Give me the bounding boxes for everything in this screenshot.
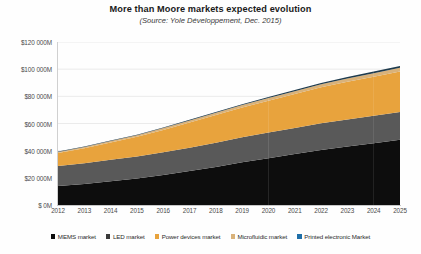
y-axis-tick-label: $ 0M	[38, 202, 52, 209]
y-axis-tick-label: $80 000M	[24, 93, 52, 100]
x-axis-tick-label: 2024	[367, 207, 381, 214]
x-axis-tick-label: 2016	[156, 207, 170, 214]
legend-item[interactable]: Microfluidic market	[231, 233, 288, 240]
legend-swatch-icon	[155, 234, 160, 239]
legend-swatch-icon	[297, 234, 302, 239]
plot-area	[58, 42, 400, 205]
legend-swatch-icon	[106, 234, 111, 239]
x-axis-tick-label: 2012	[51, 207, 65, 214]
chart-card: More than Moore markets expected evoluti…	[0, 0, 421, 254]
x-axis-tick-label: 2023	[341, 207, 355, 214]
x-axis-tick-label: 2018	[209, 207, 223, 214]
legend-item-label: Microfluidic market	[238, 233, 288, 240]
x-axis-tick-label: 2021	[288, 207, 302, 214]
x-axis-tick-label: 2025	[393, 207, 407, 214]
legend-item-label: Power devices market	[162, 233, 221, 240]
x-axis-tick-label: 2014	[104, 207, 118, 214]
y-axis-tick-label: $60 000M	[24, 120, 52, 127]
legend-item-label: MEMS market	[58, 233, 96, 240]
y-axis-tick-label: $100 000M	[21, 66, 52, 73]
legend-item[interactable]: Power devices market	[155, 233, 221, 240]
x-axis-tick-label: 2015	[130, 207, 144, 214]
legend-item[interactable]: LED market	[106, 233, 145, 240]
legend-swatch-icon	[51, 234, 56, 239]
y-axis-tick-label: $40 000M	[24, 147, 52, 154]
page-title: More than Moore markets expected evoluti…	[0, 3, 421, 15]
legend-swatch-icon	[231, 234, 236, 239]
y-axis-tick-label: $20 000M	[24, 174, 52, 181]
x-axis-tick-label: 2022	[314, 207, 328, 214]
chart-subtitle: (Source: Yole Développement, Dec. 2015)	[0, 15, 421, 26]
x-axis: 2012201320142015201620172018201920202021…	[58, 206, 400, 219]
x-axis-tick-label: 2020	[262, 207, 276, 214]
title-block: More than Moore markets expected evoluti…	[0, 3, 421, 26]
legend-item-label: Printed electronic Market	[304, 233, 370, 240]
y-axis-tick-label: $120 000M	[21, 39, 52, 46]
legend-item[interactable]: Printed electronic Market	[297, 233, 370, 240]
y-axis: $ 0M$20 000M$40 000M$60 000M$80 000M$100…	[0, 42, 55, 205]
x-axis-tick-label: 2017	[183, 207, 197, 214]
chart-legend: MEMS marketLED marketPower devices marke…	[0, 233, 421, 240]
legend-item-label: LED market	[113, 233, 145, 240]
x-axis-tick-label: 2019	[235, 207, 249, 214]
legend-item[interactable]: MEMS market	[51, 233, 96, 240]
stacked-area-plot	[58, 42, 400, 205]
x-axis-tick-label: 2013	[77, 207, 91, 214]
